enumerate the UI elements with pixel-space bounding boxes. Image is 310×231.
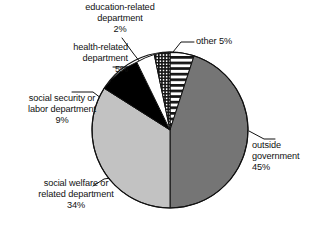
pie-label-social-welfare: social welfare or related department 34% <box>12 178 140 212</box>
pie-chart-figure: education-related department 2% other 5%… <box>0 0 310 231</box>
pie-label-social-security: social security or labor department 9% <box>2 93 122 127</box>
pie-label-other: other 5% <box>196 36 266 47</box>
pie-label-education-related: education-related department 2% <box>58 2 182 36</box>
pie-label-health-related: health-related department 5% <box>22 42 128 76</box>
leader-line-outside-government <box>249 131 275 139</box>
pie-label-outside-government: outside government 45% <box>252 140 310 174</box>
